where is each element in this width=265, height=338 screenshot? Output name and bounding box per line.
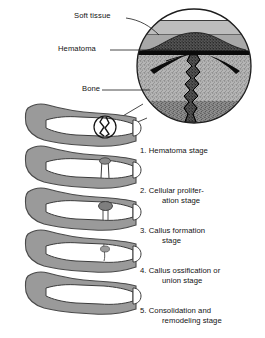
stage-number-1: 1. (140, 146, 147, 155)
stage-text-5: Consolidation and (149, 306, 211, 315)
stage-text-4: Callus ossification or (149, 266, 221, 275)
stage-number-2: 2. (140, 186, 147, 195)
stage-text-2: Cellular prolifer- (149, 186, 204, 195)
stage-number-3: 3. (140, 226, 147, 235)
callus-ossification-4 (101, 246, 110, 252)
stage-number-5: 5. (140, 306, 147, 315)
periosteum-band (130, 51, 260, 56)
stage-text-4-cont: union stage (151, 276, 265, 286)
stage-text-3-cont: stage (151, 236, 265, 246)
callus-mass-3 (99, 202, 113, 211)
callout-label-bone: Bone (82, 84, 100, 93)
stage-caption-2: 2. Cellular prolifer- ation stage (140, 186, 265, 205)
stage-text-1: Hematoma stage (149, 146, 208, 155)
stage-text-2-cont: ation stage (151, 196, 265, 206)
stage-text-5-cont: remodeling stage (151, 316, 265, 326)
stage-caption-5: 5. Consolidation and remodeling stage (140, 306, 265, 325)
callout-label-soft-tissue: Soft tissue (74, 11, 111, 20)
callout-label-hematoma: Hematoma (58, 44, 96, 53)
stage-caption-3: 3. Callus formation stage (140, 226, 265, 245)
stage-caption-1: 1. Hematoma stage (140, 146, 265, 156)
stage-number-4: 4. (140, 266, 147, 275)
fracture-healing-figure (0, 0, 265, 338)
stage-caption-4: 4. Callus ossification or union stage (140, 266, 265, 285)
stage-text-3: Callus formation (149, 226, 205, 235)
callus-proliferation-2 (100, 158, 111, 164)
